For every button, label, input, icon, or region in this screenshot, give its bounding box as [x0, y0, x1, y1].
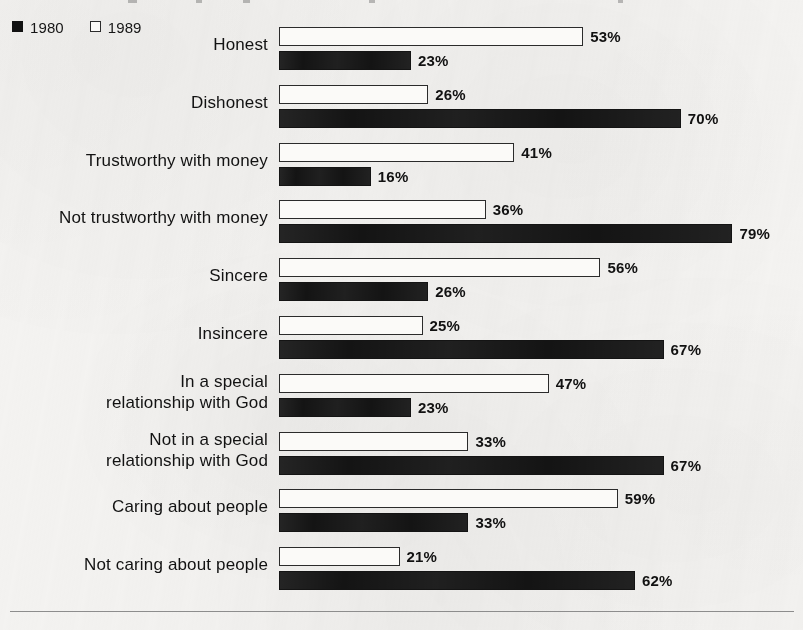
bar-group: Trustworthy with money41%16% [0, 137, 803, 189]
category-label: Sincere [6, 265, 268, 286]
category-label-line: Not caring about people [6, 554, 268, 575]
category-label-line: Not trustworthy with money [6, 207, 268, 228]
bar-group: Insincere25%67% [0, 310, 803, 362]
bar-group: Caring about people59%33% [0, 483, 803, 535]
bar-group: In a specialrelationship with God47%23% [0, 368, 803, 420]
bar-1980 [279, 85, 428, 104]
bar-value-label: 79% [739, 225, 770, 242]
legend-swatch-filled-icon [12, 21, 23, 32]
grouped-bar-chart: Honest53%23%Dishonest26%70%Trustworthy w… [0, 0, 803, 600]
bar-value-label: 62% [642, 572, 673, 589]
bar-1989 [279, 282, 428, 301]
bar-value-label: 41% [521, 144, 552, 161]
bar-1980 [279, 374, 549, 393]
legend-item-1980: 1980 [12, 19, 64, 36]
bar-1989 [279, 456, 664, 475]
bar-value-label: 33% [475, 514, 506, 531]
category-label-line: Sincere [6, 265, 268, 286]
bar-value-label: 26% [435, 283, 466, 300]
category-label: Not in a specialrelationship with God [6, 429, 268, 471]
chart-legend: 1980 1989 [12, 18, 142, 36]
bar-group: Not in a specialrelationship with God33%… [0, 426, 803, 478]
bar-1980 [279, 27, 583, 46]
bar-value-label: 59% [625, 490, 656, 507]
category-label-line: Insincere [6, 323, 268, 344]
bar-1980 [279, 258, 600, 277]
category-label: In a specialrelationship with God [6, 371, 268, 413]
category-label-line: relationship with God [6, 450, 268, 471]
bar-1989 [279, 224, 732, 243]
bar-value-label: 70% [688, 110, 719, 127]
bar-1989 [279, 398, 411, 417]
legend-item-1989: 1989 [90, 19, 142, 36]
bar-value-label: 16% [378, 168, 409, 185]
bar-group: Dishonest26%70% [0, 79, 803, 131]
bar-value-label: 36% [493, 201, 524, 218]
bar-group: Sincere56%26% [0, 252, 803, 304]
bar-value-label: 25% [430, 317, 461, 334]
bar-1980 [279, 547, 400, 566]
bar-value-label: 26% [435, 86, 466, 103]
category-label-line: Dishonest [6, 92, 268, 113]
bar-value-label: 23% [418, 399, 449, 416]
bar-value-label: 33% [475, 433, 506, 450]
bar-1980 [279, 200, 486, 219]
bar-value-label: 23% [418, 52, 449, 69]
category-label: Insincere [6, 323, 268, 344]
bar-1989 [279, 571, 635, 590]
bar-1989 [279, 513, 468, 532]
bar-value-label: 67% [671, 341, 702, 358]
category-label-line: In a special [6, 371, 268, 392]
bar-1980 [279, 316, 423, 335]
category-label-line: relationship with God [6, 392, 268, 413]
bar-1989 [279, 51, 411, 70]
bar-value-label: 53% [590, 28, 621, 45]
category-label-line: Not in a special [6, 429, 268, 450]
bar-group: Not caring about people21%62% [0, 541, 803, 593]
bar-1989 [279, 340, 664, 359]
bar-value-label: 47% [556, 375, 587, 392]
category-label: Not caring about people [6, 554, 268, 575]
footer-divider-rule [10, 611, 794, 612]
bar-group: Not trustworthy with money36%79% [0, 194, 803, 246]
bar-1980 [279, 143, 514, 162]
category-label-line: Trustworthy with money [6, 150, 268, 171]
bar-1989 [279, 167, 371, 186]
bar-value-label: 56% [607, 259, 638, 276]
bar-value-label: 21% [407, 548, 438, 565]
legend-label-1980: 1980 [30, 19, 64, 36]
category-label: Not trustworthy with money [6, 207, 268, 228]
category-label: Dishonest [6, 92, 268, 113]
category-label: Trustworthy with money [6, 150, 268, 171]
category-label-line: Honest [6, 34, 268, 55]
bar-1980 [279, 432, 468, 451]
category-label: Honest [6, 34, 268, 55]
category-label: Caring about people [6, 496, 268, 517]
legend-swatch-outline-icon [90, 21, 101, 32]
bar-1989 [279, 109, 681, 128]
category-label-line: Caring about people [6, 496, 268, 517]
legend-label-1989: 1989 [108, 19, 142, 36]
bar-1980 [279, 489, 618, 508]
bar-value-label: 67% [671, 457, 702, 474]
